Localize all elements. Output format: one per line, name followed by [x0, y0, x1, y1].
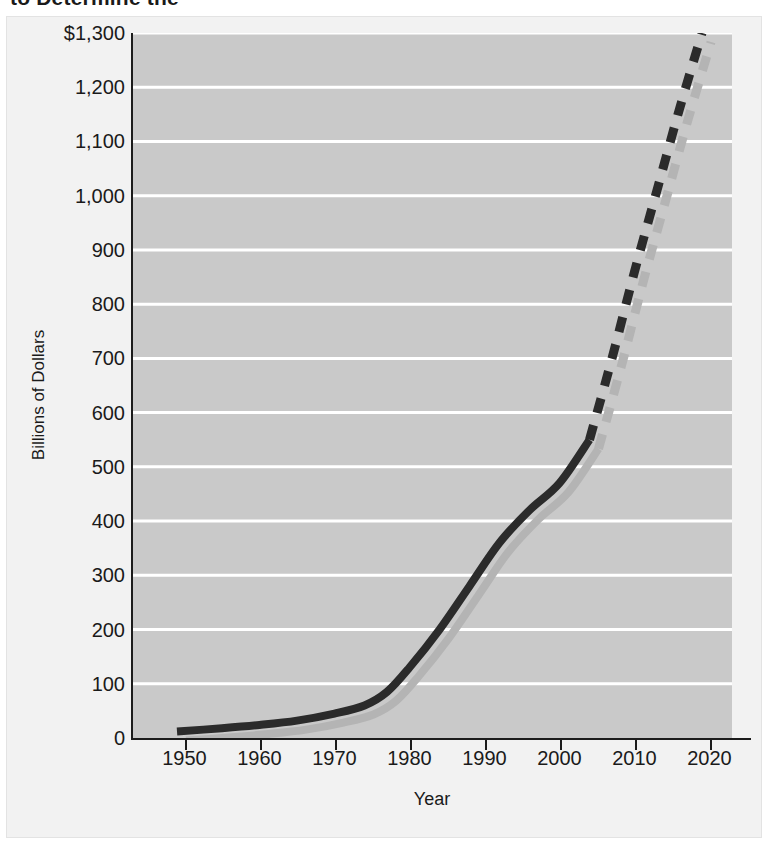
chart-svg: [132, 33, 732, 738]
x-tick-label: 2000: [537, 747, 582, 770]
y-tick-label: 400: [29, 510, 125, 533]
y-tick-label: 900: [29, 238, 125, 261]
y-tick-label: $1,300: [29, 22, 125, 45]
page-title: to Determine the: [0, 0, 768, 14]
y-tick-label: 300: [29, 564, 125, 587]
x-tick-label: 1990: [462, 747, 507, 770]
page-title-text: to Determine the: [10, 0, 179, 10]
series-line-0: [177, 440, 590, 732]
y-axis-line: [131, 33, 133, 740]
chart-figure: 01002003004005006007008009001,0001,1001,…: [6, 16, 762, 838]
y-tick-label: 1,100: [29, 130, 125, 153]
y-tick-label: 200: [29, 618, 125, 641]
x-tick-label: 1980: [387, 747, 432, 770]
y-tick-label: 100: [29, 672, 125, 695]
line-shadow: [186, 42, 711, 738]
x-axis-line: [131, 738, 751, 740]
x-tick-label: 1950: [162, 747, 207, 770]
x-tick-label: 1960: [237, 747, 282, 770]
data-series: [177, 33, 702, 731]
x-tick-label: 2020: [687, 747, 732, 770]
plot-area: [132, 33, 732, 738]
series-shadow-0: [186, 449, 599, 738]
y-axis-title: Billions of Dollars: [29, 295, 49, 495]
y-tick-label: 1,200: [29, 76, 125, 99]
series-line-1: [590, 33, 703, 440]
x-axis-title: Year: [132, 789, 732, 810]
y-tick-label: 1,000: [29, 184, 125, 207]
gridlines: [132, 33, 732, 684]
series-shadow-1: [599, 42, 712, 449]
x-tick-label: 1970: [312, 747, 357, 770]
y-tick-label: 0: [29, 727, 125, 750]
x-tick-label: 2010: [612, 747, 657, 770]
